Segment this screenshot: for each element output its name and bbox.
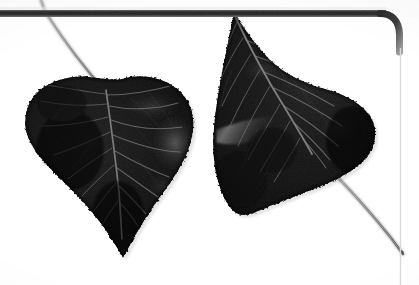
leaf-specimen-image (0, 0, 419, 285)
leaf-photograph (0, 0, 419, 285)
